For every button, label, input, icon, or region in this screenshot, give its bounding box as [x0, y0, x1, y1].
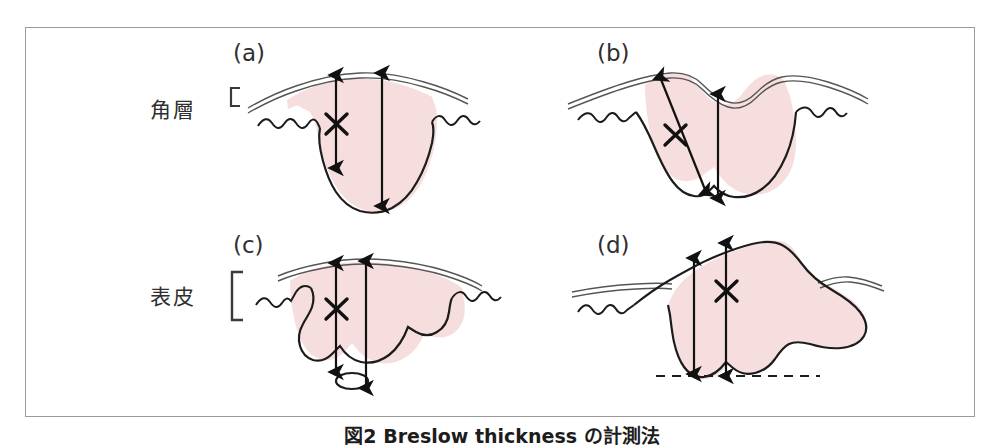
- figure-caption: 図2 Breslow thickness の計測法: [0, 421, 1004, 448]
- panel-tag-a: (a): [233, 40, 265, 66]
- row-label-epidermis: 表皮: [150, 280, 196, 310]
- row-label-stratum-corneum: 角層: [150, 93, 196, 123]
- panel-tag-d: (d): [597, 232, 630, 258]
- panel-tag-b: (b): [597, 40, 630, 66]
- figure-frame: [25, 27, 975, 417]
- panel-tag-c: (c): [233, 232, 264, 258]
